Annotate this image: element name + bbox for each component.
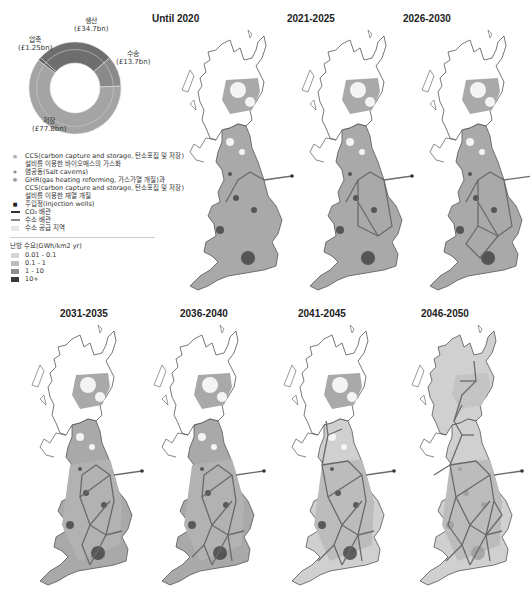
demand-hotspot (318, 521, 326, 529)
legend-item: CO₂ 배관 (10, 208, 170, 216)
injection-well-icon: ■ (10, 200, 20, 208)
injection-well-icon (520, 469, 524, 473)
legend-item: ■주입정(Injection wells) (10, 200, 170, 208)
gb-map (132, 325, 272, 595)
gb-map (280, 30, 420, 300)
salt-cavern-star-icon: ★ (10, 168, 20, 176)
demand-hotspot (200, 467, 204, 471)
demand-legend-item: 0.1 - 1 (10, 259, 170, 267)
demand-hotspot (233, 195, 239, 201)
demand-legend-label: 0.1 - 1 (25, 259, 46, 267)
legend-item: ●CCS(carbon capture and storage, 탄소포집 및 … (10, 152, 170, 160)
hydrogen-pipeline-icon (10, 216, 20, 224)
map-title: 2036-2040 (180, 308, 228, 319)
gb-map (262, 325, 402, 595)
donut-label-storage: 저장(£77.8bn) (32, 117, 66, 133)
gb-map (400, 30, 530, 300)
demand-hotspot (336, 226, 344, 234)
map-panel-2031-2035 (10, 325, 150, 595)
donut-label-transport: 수송(£13.7bn) (116, 50, 150, 66)
map-panel-2041-2045 (262, 325, 402, 595)
donut-label-production: 생산(£34.7bn) (74, 17, 108, 33)
legend-item: 설비를 이용한 재열 개질 (10, 192, 170, 200)
legend-items: ●CCS(carbon capture and storage, 탄소포집 및 … (10, 152, 170, 232)
demand-legend-item: 1 - 10 (10, 267, 170, 275)
demand-hotspot (371, 207, 377, 213)
demand-hotspot (228, 172, 232, 176)
demand-hotspot (251, 207, 257, 213)
pipeline-route (494, 471, 522, 475)
demand-legend-label: 1 - 10 (25, 267, 44, 275)
legend-item: ★염공동(Salt caverns) (10, 168, 170, 176)
map-title: Until 2020 (152, 13, 199, 24)
demand-legend-item: 10+ (10, 275, 170, 283)
demand-legend-items: 0.01 - 0.10.1 - 11 - 1010+ (10, 251, 170, 283)
map-panel-until-2020 (160, 30, 300, 300)
demand-hotspot (361, 251, 375, 265)
gb-map (10, 325, 150, 595)
gb-map (160, 30, 300, 300)
demand-hotspot (456, 226, 464, 234)
map-panel-2036-2040 (132, 325, 272, 595)
demand-legend-title: 난방 수요(GWh/km2 yr) (10, 242, 170, 250)
map-title: 2021-2025 (287, 13, 335, 24)
map-title: 2031-2035 (60, 308, 108, 319)
ghr-ccs-icon: ✱ (10, 176, 20, 184)
demand-hotspot (458, 467, 462, 471)
map-title: 2046-2050 (421, 308, 469, 319)
demand-hotspot (468, 172, 472, 176)
map-panel-2021-2025 (280, 30, 420, 300)
demand-legend-label: 0.01 - 0.1 (25, 251, 56, 259)
gb-map (390, 325, 530, 595)
demand-hotspot (216, 226, 224, 234)
legend-item-label: 주입정(Injection wells) (25, 200, 94, 208)
legend-spacer (10, 192, 20, 200)
map-panel-2026-2030 (400, 30, 530, 300)
legend-item-label: 설비를 이용한 바이오매스의 가스화 (25, 160, 121, 168)
legend-item-label: 수소 배관 (25, 216, 51, 224)
demand-swatch-icon (10, 275, 20, 283)
legend-item-label: 수소 공급 지역 (25, 224, 65, 232)
co2-pipeline-icon (10, 208, 20, 216)
legend-divider (10, 237, 155, 238)
pipeline-route (434, 465, 450, 475)
cost-donut-chart: 생산(£34.7bn) 수송(£13.7bn) 저장(£77.8bn) 압축(£… (0, 0, 150, 150)
demand-swatch-icon (10, 259, 20, 267)
pipeline-route (236, 471, 264, 475)
hydrogen-supply-area-icon (10, 224, 20, 232)
legend-spacer (10, 184, 20, 192)
donut-label-compression: 압축(£1.25bn) (18, 36, 52, 52)
map-title: 2026-2030 (403, 13, 451, 24)
demand-legend-item: 0.01 - 0.1 (10, 251, 170, 259)
legend-spacer (10, 160, 20, 168)
map-title: 2041-2045 (298, 308, 346, 319)
demand-hotspot (348, 172, 352, 176)
biomass-ccs-dot-icon: ● (10, 152, 20, 160)
demand-hotspot (481, 251, 495, 265)
legend-item: 수소 배관 (10, 216, 170, 224)
pipeline-route (504, 176, 530, 180)
demand-hotspot (78, 467, 82, 471)
legend-item-label: 설비를 이용한 재열 개질 (25, 192, 91, 200)
demand-hotspot (491, 207, 497, 213)
legend-item-label: GHR(gas heating reforming, 가스가열 개질)과 (25, 176, 165, 184)
map-panel-2046-2050 (390, 325, 530, 595)
demand-hotspot (188, 521, 196, 529)
legend-item: 설비를 이용한 바이오매스의 가스화 (10, 160, 170, 168)
legend-item: CCS(carbon capture and storage, 탄소포집 및 저… (10, 184, 170, 192)
demand-swatch-icon (10, 251, 20, 259)
demand-swatch-icon (10, 267, 20, 275)
demand-hotspot (66, 521, 74, 529)
legend-item: 수소 공급 지역 (10, 224, 170, 232)
legend-item: ✱GHR(gas heating reforming, 가스가열 개질)과 (10, 176, 170, 184)
legend-item-label: 염공동(Salt caverns) (25, 168, 88, 176)
map-legend: ●CCS(carbon capture and storage, 탄소포집 및 … (10, 152, 170, 283)
legend-item-label: CO₂ 배관 (25, 208, 51, 216)
demand-legend-label: 10+ (25, 275, 39, 283)
demand-hotspot (330, 467, 334, 471)
demand-hotspot (241, 251, 255, 265)
